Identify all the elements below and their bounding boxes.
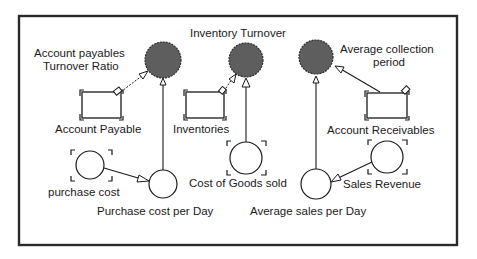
sales-revenue-circle bbox=[371, 141, 403, 173]
arrowhead-icon bbox=[137, 175, 149, 182]
node-ap-turnover[interactable]: Account payables Turnover Ratio bbox=[34, 42, 181, 78]
arrowhead-icon bbox=[331, 174, 341, 182]
link-cogs-to-inventory-turnover bbox=[242, 78, 250, 142]
inventory-turnover-diagram: Account payables Turnover Ratio Inventor… bbox=[0, 0, 477, 259]
average-sales-per-day-circle bbox=[301, 169, 331, 199]
converter-purchase-cost[interactable]: purchase cost bbox=[48, 150, 120, 198]
arrowhead-icon bbox=[313, 76, 319, 83]
collection-period-label-1: Average collection bbox=[340, 43, 434, 55]
collection-period-label-2: period bbox=[373, 56, 405, 68]
average-sales-per-day-label: Average sales per Day bbox=[250, 205, 366, 217]
arrowhead-icon bbox=[139, 71, 148, 79]
purchase-cost-circle bbox=[76, 151, 104, 179]
link-purchase-cost-to-per-day bbox=[104, 168, 149, 182]
purchase-cost-label: purchase cost bbox=[48, 186, 120, 198]
link-inventories-to-inventory-turnover bbox=[219, 74, 236, 94]
link-purchase-cost-per-day-to-ap-turnover bbox=[160, 78, 166, 170]
sales-revenue-label: Sales Revenue bbox=[343, 178, 421, 190]
stock-inventories[interactable]: Inventories bbox=[173, 90, 230, 135]
inventories-label: Inventories bbox=[173, 123, 230, 135]
ap-turnover-label-1: Account payables bbox=[34, 47, 125, 59]
link-avg-sales-to-collection-period bbox=[313, 76, 319, 169]
ap-turnover-circle bbox=[145, 42, 181, 78]
link-receivables-to-collection-period bbox=[335, 66, 410, 94]
stock-account-payable[interactable]: Account Payable bbox=[55, 90, 141, 135]
account-payable-label: Account Payable bbox=[55, 123, 141, 135]
inventory-turnover-circle bbox=[229, 43, 263, 77]
node-inventory-turnover[interactable]: Inventory Turnover bbox=[190, 27, 286, 77]
collection-period-circle bbox=[299, 40, 333, 74]
arrowhead-icon bbox=[242, 78, 250, 87]
cost-of-goods-sold-circle bbox=[230, 142, 262, 174]
node-collection-period[interactable]: Average collection period bbox=[299, 40, 434, 74]
ap-turnover-label-2: Turnover Ratio bbox=[43, 60, 119, 72]
arrowhead-icon bbox=[160, 78, 166, 85]
account-payable-box bbox=[82, 92, 121, 118]
account-receivables-label: Account Receivables bbox=[327, 124, 435, 136]
arrowhead-icon bbox=[335, 66, 344, 73]
account-receivables-box bbox=[367, 93, 407, 118]
converter-sales-revenue[interactable]: Sales Revenue bbox=[343, 140, 421, 190]
cost-of-goods-sold-label: Cost of Goods sold bbox=[189, 177, 287, 189]
inventory-turnover-label: Inventory Turnover bbox=[190, 27, 286, 39]
purchase-cost-per-day-circle bbox=[149, 170, 177, 198]
link-account-payable-to-ap-turnover bbox=[113, 71, 148, 95]
purchase-cost-per-day-label: Purchase cost per Day bbox=[97, 205, 214, 217]
stock-account-receivables[interactable]: Account Receivables bbox=[327, 91, 435, 136]
inventories-box bbox=[186, 92, 224, 118]
converter-cost-of-goods-sold[interactable]: Cost of Goods sold bbox=[189, 141, 287, 189]
